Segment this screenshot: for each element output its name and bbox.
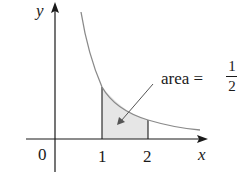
fraction-numerator: 1 [226,59,238,74]
x-axis-label: x [198,146,206,163]
shaded-area [102,87,148,139]
fraction-denominator: 2 [226,79,238,94]
tick-label-2: 2 [143,148,152,165]
y-axis-label: y [36,2,44,19]
annotation-text: area = [161,70,203,87]
tick-label-1: 1 [98,148,107,165]
area-under-curve-figure: y x 0 1 2 area = 1 2 [0,0,250,184]
origin-label: 0 [38,146,47,163]
fraction-bar [226,76,237,77]
